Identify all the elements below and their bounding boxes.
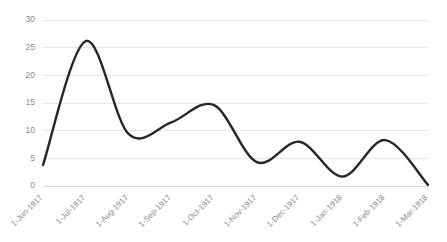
x-axis-tick-label: 1-Nov-1917 — [222, 193, 258, 229]
y-axis-tick-label: 10 — [26, 125, 36, 135]
series-line-1 — [43, 41, 428, 185]
x-axis-tick-label: 1-Dec-1917 — [265, 193, 301, 229]
x-axis-tick-label: 1-Jan-1918 — [309, 193, 344, 228]
y-axis-tick-labels: 051015202530 — [26, 14, 36, 190]
x-axis-tick-labels: 1-Jun-19171-Jul-19171-Aug-19171-Sep-1917… — [9, 193, 429, 229]
y-axis-tick-label: 15 — [26, 97, 36, 107]
x-axis-tick-label: 1-Feb-1918 — [351, 193, 387, 229]
x-axis-tick-label: 1-Jul-1917 — [54, 193, 87, 226]
x-axis-tick-label: 1-Mar-1918 — [394, 193, 430, 229]
chart-canvas: 051015202530 1-Jun-19171-Jul-19171-Aug-1… — [0, 0, 447, 242]
x-axis-tick-label: 1-Jun-1917 — [9, 193, 44, 228]
y-axis-tick-label: 30 — [26, 14, 36, 24]
x-axis-tick-label: 1-Oct-1917 — [181, 193, 216, 228]
x-axis-tick-label: 1-Sep-1917 — [137, 193, 173, 229]
y-axis-tick-label: 25 — [26, 42, 36, 52]
y-axis-tick-label: 0 — [30, 180, 35, 190]
x-axis-tick-label: 1-Aug-1917 — [94, 193, 130, 229]
line-chart: 051015202530 1-Jun-19171-Jul-19171-Aug-1… — [0, 0, 447, 242]
data-series-group — [43, 41, 428, 185]
y-axis-tick-label: 5 — [30, 153, 35, 163]
gridlines-group — [43, 20, 428, 186]
y-axis-tick-label: 20 — [26, 70, 36, 80]
